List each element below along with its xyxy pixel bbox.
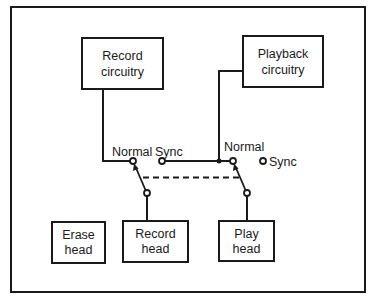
tape-head-switching-diagram: Record circuitry Playback circuitry Eras… bbox=[0, 0, 372, 298]
play-switch-sync-contact bbox=[260, 158, 266, 164]
play-switch-pivot bbox=[244, 190, 250, 196]
record-switch-normal-label: Normal bbox=[112, 145, 152, 159]
record-head-block: Record head bbox=[123, 221, 188, 262]
record-circuitry-block: Record circuitry bbox=[82, 38, 163, 89]
play-switch-sync-label: Sync bbox=[269, 155, 297, 169]
record-switch-arm bbox=[136, 168, 146, 190]
erase-head-label-2: head bbox=[65, 243, 93, 257]
record-circuitry-label-2: circuitry bbox=[101, 65, 145, 79]
junction-dot bbox=[217, 159, 222, 164]
play-switch-normal-contact bbox=[230, 158, 236, 164]
playback-circuitry-label-1: Playback bbox=[258, 47, 309, 61]
play-head-label-1: Play bbox=[234, 227, 259, 241]
record-switch: Normal Sync bbox=[112, 145, 183, 196]
record-head-label-1: Record bbox=[135, 227, 175, 241]
playback-circuitry-label-2: circuitry bbox=[261, 63, 305, 77]
play-switch: Normal Sync bbox=[224, 140, 297, 196]
playback-circuitry-block: Playback circuitry bbox=[243, 36, 323, 87]
play-head-block: Play head bbox=[219, 221, 274, 261]
play-head-label-2: head bbox=[233, 242, 261, 256]
erase-head-block: Erase head bbox=[52, 222, 105, 263]
play-switch-normal-label: Normal bbox=[224, 140, 264, 154]
play-switch-arm bbox=[236, 168, 246, 190]
record-switch-pivot bbox=[144, 190, 150, 196]
record-switch-sync-label: Sync bbox=[155, 145, 183, 159]
record-head-label-2: head bbox=[142, 242, 170, 256]
erase-head-label-1: Erase bbox=[62, 228, 95, 242]
record-circuitry-label-1: Record bbox=[102, 49, 142, 63]
